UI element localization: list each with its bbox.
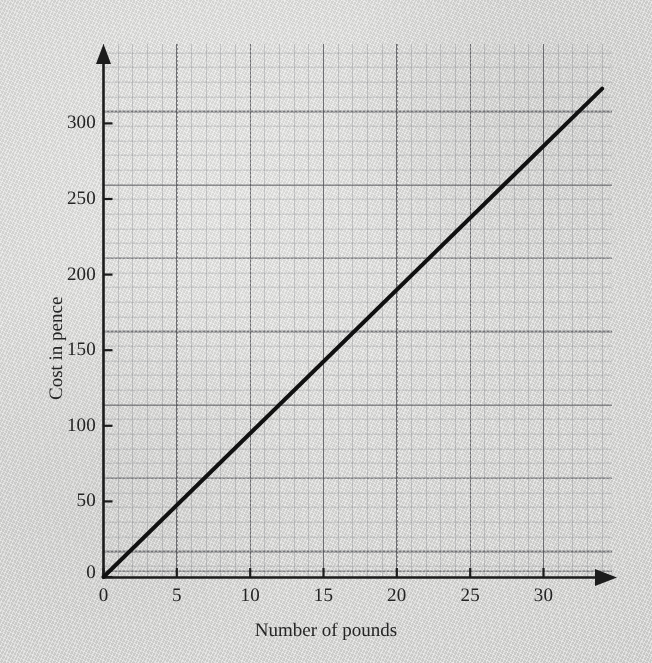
x-axis-title: Number of pounds: [0, 620, 652, 642]
x-tick-label-0: 0: [99, 585, 109, 607]
x-tick-label-15: 15: [314, 585, 333, 607]
y-axis-title: Cost in pence: [46, 297, 68, 400]
y-tick-label-250: 250: [56, 188, 96, 210]
x-tick-label-25: 25: [460, 585, 479, 607]
y-tick-label-50: 50: [56, 490, 96, 512]
x-tick-label-10: 10: [240, 585, 259, 607]
y-tick-label-0: 0: [56, 562, 96, 584]
y-tick-label-100: 100: [56, 415, 96, 437]
x-tick-label-5: 5: [172, 585, 182, 607]
y-tick-label-300: 300: [56, 112, 96, 134]
graph-paper-figure: 0 5 10 15 20 25 30 0 50 100 150 200 250 …: [0, 0, 652, 663]
chart-major-gridlines: [103, 44, 612, 577]
x-tick-label-30: 30: [534, 585, 553, 607]
y-tick-label-200: 200: [56, 264, 96, 286]
x-tick-label-20: 20: [387, 585, 406, 607]
